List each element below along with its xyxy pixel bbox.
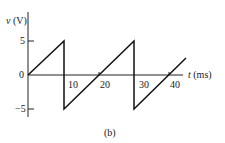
- y-tick-label-5: 5: [20, 36, 25, 46]
- x-tick-label-40: 40: [170, 80, 180, 90]
- x-tick-label-30: 30: [139, 80, 149, 90]
- y-axis-label: v (V): [6, 16, 27, 26]
- y-tick-label-0: 0: [19, 70, 24, 80]
- x-tick-label-10: 10: [68, 80, 78, 90]
- x-axis-label: t (ms): [188, 70, 212, 80]
- x-tick-label-20: 20: [100, 80, 110, 90]
- figure-caption: (b): [104, 128, 116, 138]
- y-tick-label-neg5: −5: [15, 104, 26, 114]
